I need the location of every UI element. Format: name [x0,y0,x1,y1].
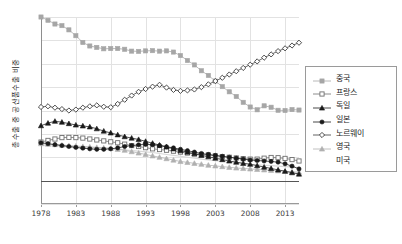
data-point [52,119,57,124]
data-point [192,63,196,67]
data-point [95,138,99,142]
chart-legend: 중국프랑스독일일본노르웨이영국미국 [305,66,397,172]
legend-label: 영국 [335,140,350,151]
data-point [66,108,71,113]
series-프랑스 [39,135,301,163]
data-point [102,147,106,151]
x-axis-tick-labels: 19781983198819931998200320082013 [41,204,299,222]
data-point [46,18,50,22]
data-point [88,147,92,151]
legend-item-중국[interactable]: 중국 [309,71,393,85]
series-line [41,43,299,111]
data-point [297,159,301,163]
data-point [122,97,127,102]
legend-item-영국[interactable]: 영국 [309,139,393,153]
data-point [234,94,238,98]
data-point [150,147,154,151]
legend-label: 독일 [335,99,350,110]
data-point [60,24,64,28]
data-point [164,85,169,90]
data-point [241,100,245,104]
data-point [290,107,294,111]
data-point [137,49,141,53]
data-point [67,144,71,148]
x-axis-tick-label: 1998 [171,209,190,218]
x-axis-tick-label: 1993 [136,209,155,218]
legend-label: 프랑스 [335,86,357,97]
data-series-layer [41,17,299,204]
data-point [234,69,239,74]
data-point [227,90,231,94]
data-point [199,69,203,73]
data-point [178,88,183,93]
data-point [185,58,189,62]
x-axis-tick-label: 2003 [206,209,225,218]
data-point [269,105,273,109]
legend-item-일본[interactable]: 일본 [309,112,393,126]
series-노르웨이 [38,40,301,113]
x-axis-tick-label: 2013 [276,209,295,218]
legend-marker-icon [309,153,335,165]
data-point [130,143,134,147]
data-point [282,46,287,51]
data-point [283,162,287,166]
data-point [143,86,148,91]
data-point [87,104,92,109]
legend-marker-icon [309,140,335,152]
legend-marker-icon [309,113,335,125]
data-point [95,147,99,151]
data-point [157,82,162,87]
data-point [53,143,57,147]
legend-item-프랑스[interactable]: 프랑스 [309,85,393,99]
gridline-horizontal [41,204,299,205]
legend-marker-icon [309,99,335,111]
data-point [199,85,204,90]
data-point [108,105,113,110]
data-point [130,49,134,53]
data-point [116,141,120,145]
data-point [290,157,294,161]
data-point [38,104,43,109]
data-point [283,156,287,160]
data-point [185,88,190,93]
series-미국 [41,146,299,168]
data-point [74,145,78,149]
series-line [41,146,299,168]
data-point [255,108,259,112]
data-point [137,143,141,147]
data-point [81,40,85,44]
data-point [80,105,85,110]
data-point [171,87,176,92]
data-point [297,167,301,171]
y-axis-title: 총수출 중 공산품수출 비중 [9,13,23,193]
data-point [39,141,43,145]
data-point [94,103,99,108]
legend-label: 미국 [335,154,350,165]
data-point [276,160,280,164]
data-point [275,49,280,54]
legend-item-미국[interactable]: 미국 [309,153,393,167]
data-point [178,53,182,57]
legend-item-독일[interactable]: 독일 [309,98,393,112]
data-point [59,106,64,111]
data-point [269,52,274,57]
data-point [248,62,253,67]
data-point [46,142,50,146]
data-point [52,105,57,110]
data-point [269,155,273,159]
data-point [38,123,43,128]
series-중국 [39,15,301,113]
data-point [276,108,280,112]
legend-marker-icon [309,85,335,97]
x-axis-tick-label: 1978 [32,209,51,218]
data-point [74,136,78,140]
data-point [206,73,210,77]
data-point [227,72,232,77]
legend-marker-icon [309,126,335,138]
data-point [88,137,92,141]
data-point [220,75,225,80]
legend-item-노르웨이[interactable]: 노르웨이 [309,125,393,139]
data-point [109,46,113,50]
x-axis-tick-label: 2008 [241,209,260,218]
legend-label: 일본 [335,113,350,124]
